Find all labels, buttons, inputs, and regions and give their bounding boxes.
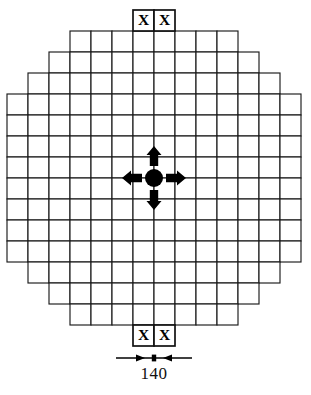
- core-cell: [49, 199, 70, 220]
- core-cell: [196, 262, 217, 283]
- core-cell: [49, 283, 70, 304]
- core-cell: [238, 115, 259, 136]
- core-cell: [7, 136, 28, 157]
- core-cell: [7, 178, 28, 199]
- core-cell: [28, 220, 49, 241]
- core-cell: [28, 199, 49, 220]
- core-cell: [133, 262, 154, 283]
- core-cell: [175, 52, 196, 73]
- core-cell: [91, 115, 112, 136]
- core-cell: [175, 304, 196, 325]
- core-cell: [70, 199, 91, 220]
- center-dot: [145, 169, 163, 187]
- core-cell: [259, 262, 280, 283]
- core-cell: [175, 31, 196, 52]
- core-cell: [49, 52, 70, 73]
- core-cell: [259, 220, 280, 241]
- core-cell: [154, 115, 175, 136]
- core-cell: [154, 304, 175, 325]
- dimension-label: 140: [141, 364, 168, 383]
- core-cell: [70, 220, 91, 241]
- core-cell: [196, 157, 217, 178]
- core-cell: [196, 241, 217, 262]
- core-cell: [259, 136, 280, 157]
- core-cell: [91, 220, 112, 241]
- core-cell: [217, 94, 238, 115]
- core-cell: [112, 199, 133, 220]
- core-cell: [133, 220, 154, 241]
- core-cell: [238, 52, 259, 73]
- core-cell: [91, 52, 112, 73]
- core-cell: [217, 157, 238, 178]
- core-cell: [175, 262, 196, 283]
- core-cell: [133, 94, 154, 115]
- core-cell: [49, 178, 70, 199]
- core-cell: [70, 283, 91, 304]
- core-cell: [112, 262, 133, 283]
- core-cell: [154, 94, 175, 115]
- core-cell: [259, 94, 280, 115]
- core-cell: [112, 52, 133, 73]
- bottom-marker-label: X: [159, 326, 171, 343]
- core-cell: [28, 157, 49, 178]
- core-cell: [238, 241, 259, 262]
- core-cell: [28, 94, 49, 115]
- core-cell: [7, 241, 28, 262]
- core-cell: [112, 304, 133, 325]
- core-cell: [91, 94, 112, 115]
- core-cell: [49, 94, 70, 115]
- core-cell: [196, 220, 217, 241]
- core-cell: [112, 220, 133, 241]
- core-cell: [217, 178, 238, 199]
- dimension-group: 140: [116, 354, 192, 383]
- core-cell: [28, 262, 49, 283]
- core-cell: [112, 283, 133, 304]
- core-cell: [196, 31, 217, 52]
- core-cell: [154, 262, 175, 283]
- core-cell: [91, 283, 112, 304]
- core-cell: [196, 304, 217, 325]
- core-cell: [70, 178, 91, 199]
- core-cell: [112, 241, 133, 262]
- dimension-tick: [163, 354, 172, 361]
- core-cell: [133, 283, 154, 304]
- core-cell: [91, 157, 112, 178]
- core-cell: [28, 241, 49, 262]
- core-cell: [91, 136, 112, 157]
- core-cell: [217, 241, 238, 262]
- core-cell: [280, 136, 301, 157]
- core-cell: [175, 94, 196, 115]
- core-lattice-figure: XX XX 140: [0, 0, 311, 395]
- core-cell: [91, 73, 112, 94]
- core-cell: [196, 52, 217, 73]
- core-cell: [196, 136, 217, 157]
- core-cell: [70, 94, 91, 115]
- core-cell: [280, 241, 301, 262]
- core-cell: [259, 73, 280, 94]
- core-cell: [7, 199, 28, 220]
- core-cell: [175, 283, 196, 304]
- core-cell: [133, 52, 154, 73]
- core-cell: [154, 220, 175, 241]
- core-cell: [112, 94, 133, 115]
- core-cell: [238, 157, 259, 178]
- core-cell: [196, 73, 217, 94]
- bottom-marker-label: X: [138, 326, 150, 343]
- core-cell: [49, 115, 70, 136]
- core-cell: [259, 199, 280, 220]
- core-cell: [112, 115, 133, 136]
- core-cell: [28, 136, 49, 157]
- core-cell: [154, 73, 175, 94]
- core-cell: [217, 304, 238, 325]
- core-cell: [49, 136, 70, 157]
- core-cell: [91, 262, 112, 283]
- core-cell: [49, 241, 70, 262]
- core-cell: [217, 31, 238, 52]
- core-cell: [7, 157, 28, 178]
- core-cell: [175, 220, 196, 241]
- lattice-svg: XX XX 140: [0, 0, 311, 395]
- core-cell: [259, 115, 280, 136]
- top-marker-label: X: [159, 11, 171, 28]
- core-cell: [70, 136, 91, 157]
- core-cell: [154, 283, 175, 304]
